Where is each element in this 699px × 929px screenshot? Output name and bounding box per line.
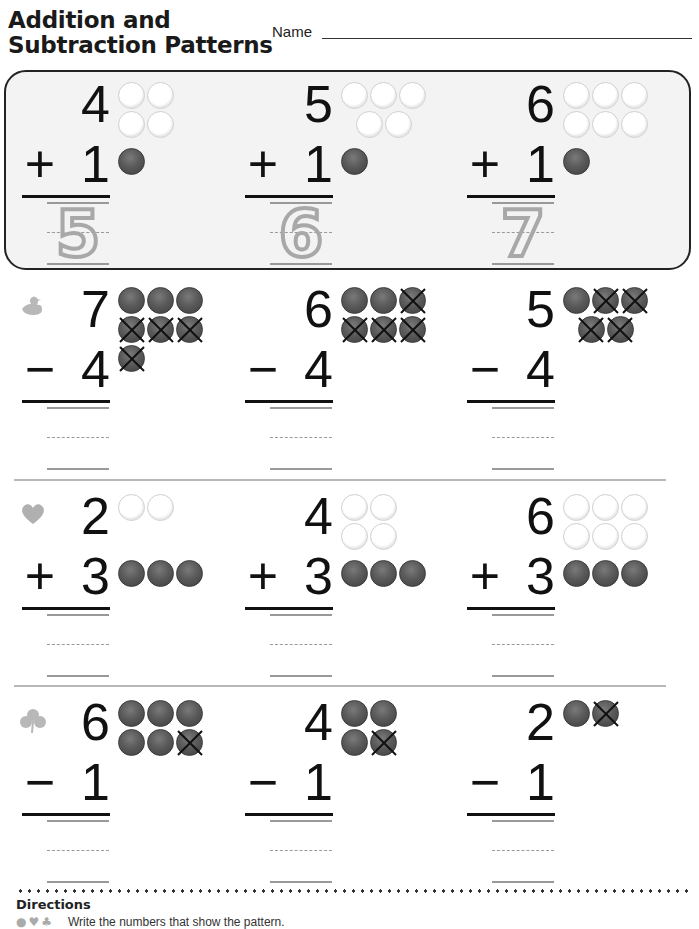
filled-counter <box>341 287 368 314</box>
top-number: 5 <box>273 78 333 130</box>
bottom-number: 1 <box>273 756 333 808</box>
top-number: 4 <box>273 696 333 748</box>
filled-counter <box>563 287 590 314</box>
sum-bar <box>245 607 333 610</box>
empty-counter <box>621 494 648 521</box>
answer-line-mid[interactable] <box>270 644 332 645</box>
answer-line-mid[interactable] <box>270 850 332 851</box>
clover-icon <box>18 708 48 730</box>
answer-line-mid[interactable] <box>47 644 109 645</box>
answer-line-top[interactable] <box>47 407 109 409</box>
sum-bar <box>467 400 555 403</box>
title-line-2: Subtraction Patterns <box>8 33 273 58</box>
filled-counter <box>341 700 368 727</box>
top-number: 7 <box>50 283 110 335</box>
answer-line-bottom[interactable] <box>47 881 109 883</box>
empty-counter <box>118 82 145 109</box>
filled-counter <box>563 700 590 727</box>
top-number: 5 <box>495 283 555 335</box>
filled-counter <box>592 560 619 587</box>
sum-bar <box>245 813 333 816</box>
bottom-number: 1 <box>50 138 110 190</box>
filled-counter <box>563 148 590 175</box>
filled-counter <box>118 560 145 587</box>
answer-line-top[interactable] <box>270 407 332 409</box>
filled-counter <box>176 287 203 314</box>
answer-line-mid[interactable] <box>492 644 554 645</box>
sum-bar <box>22 813 110 816</box>
filled-counter <box>341 148 368 175</box>
empty-counter <box>621 523 648 550</box>
answer-line-mid[interactable] <box>47 437 109 438</box>
top-number: 6 <box>495 490 555 542</box>
empty-counter <box>118 494 145 521</box>
answer-line-top[interactable] <box>47 614 109 616</box>
traced-answer: 7 <box>493 202 553 266</box>
empty-counter <box>399 82 426 109</box>
crossed-out-counter <box>118 345 145 372</box>
filled-counter <box>118 700 145 727</box>
duck-icon: ● <box>16 915 28 929</box>
empty-counter <box>341 82 368 109</box>
answer-line-mid[interactable] <box>492 437 554 438</box>
bottom-number: 1 <box>50 756 110 808</box>
bottom-number: 1 <box>495 138 555 190</box>
answer-line-mid[interactable] <box>492 850 554 851</box>
answer-line-bottom[interactable] <box>492 881 554 883</box>
answer-line-mid[interactable] <box>270 437 332 438</box>
filled-counter <box>147 560 174 587</box>
answer-line-bottom[interactable] <box>492 675 554 677</box>
answer-line-top[interactable] <box>492 820 554 822</box>
answer-line-bottom[interactable] <box>270 468 332 470</box>
answer-line-top[interactable] <box>270 614 332 616</box>
empty-counter <box>341 494 368 521</box>
answer-line-bottom[interactable] <box>47 675 109 677</box>
bottom-number: 1 <box>495 756 555 808</box>
sum-bar <box>467 813 555 816</box>
bottom-number: 3 <box>50 550 110 602</box>
empty-counter <box>592 523 619 550</box>
empty-counter <box>147 494 174 521</box>
bottom-number: 3 <box>273 550 333 602</box>
answer-line-top[interactable] <box>270 820 332 822</box>
sum-bar <box>245 400 333 403</box>
answer-line-top[interactable] <box>492 614 554 616</box>
empty-counter <box>563 523 590 550</box>
answer-line-top[interactable] <box>492 407 554 409</box>
bottom-number: 4 <box>50 343 110 395</box>
heart-icon <box>18 502 48 524</box>
empty-counter <box>621 111 648 138</box>
sum-bar <box>22 607 110 610</box>
empty-counter <box>356 111 383 138</box>
duck-icon <box>18 295 48 317</box>
filled-counter <box>147 287 174 314</box>
name-field[interactable]: Name <box>272 23 692 41</box>
answer-line-bottom[interactable] <box>270 675 332 677</box>
directions-title: Directions <box>16 897 91 912</box>
answer-line-bottom[interactable] <box>270 881 332 883</box>
bottom-number: 3 <box>495 550 555 602</box>
answer-line-bottom[interactable] <box>47 468 109 470</box>
answer-line-mid[interactable] <box>47 850 109 851</box>
heart-icon: ♥ <box>28 915 41 929</box>
crossed-out-counter <box>176 316 203 343</box>
empty-counter <box>563 494 590 521</box>
empty-counter <box>592 494 619 521</box>
empty-counter <box>621 82 648 109</box>
filled-counter <box>621 560 648 587</box>
answer-line-top[interactable] <box>47 820 109 822</box>
row-icons-legend: ●♥♣ <box>16 915 54 929</box>
name-label: Name <box>272 23 312 40</box>
filled-counter <box>341 729 368 756</box>
name-write-line[interactable] <box>322 38 692 39</box>
top-number: 4 <box>50 78 110 130</box>
answer-line-bottom[interactable] <box>492 468 554 470</box>
traced-answer: 6 <box>271 202 331 266</box>
directions-text: Write the numbers that show the pattern. <box>68 915 285 929</box>
top-number: 2 <box>495 696 555 748</box>
filled-counter <box>370 560 397 587</box>
crossed-out-counter <box>592 287 619 314</box>
empty-counter <box>563 82 590 109</box>
row-divider <box>14 685 666 687</box>
crossed-out-counter <box>399 287 426 314</box>
